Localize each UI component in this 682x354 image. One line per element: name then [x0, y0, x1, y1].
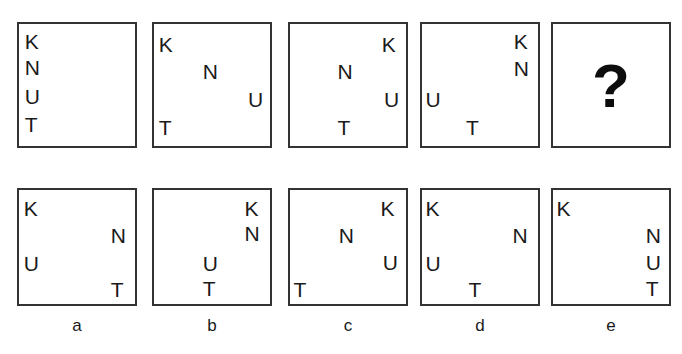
letter-n: N [338, 61, 353, 82]
option-b-cell[interactable]: KNUT [152, 188, 272, 306]
letter-t: T [203, 278, 216, 299]
letter-n: N [339, 225, 354, 246]
option-a-box[interactable]: KNUT [17, 188, 137, 306]
letter-n: N [514, 58, 529, 79]
stimulus-4-cell: KNUT [420, 22, 540, 148]
option-label-e[interactable]: e [551, 316, 671, 336]
letter-k: K [24, 198, 38, 219]
letter-t: T [646, 278, 659, 299]
letter-n: N [25, 57, 40, 78]
letter-k: K [244, 198, 258, 219]
letter-u: U [24, 253, 39, 274]
stimulus-2-box: KNUT [152, 22, 272, 148]
letter-n: N [111, 225, 126, 246]
stimulus-row: KNUTKNUTKNUTKNUT? [0, 22, 682, 148]
letter-t: T [468, 279, 481, 300]
letter-u: U [384, 89, 399, 110]
stimulus-5-unknown-cell: ? [551, 22, 671, 148]
letter-k: K [382, 34, 396, 55]
letter-t: T [25, 114, 38, 135]
question-mark: ? [553, 24, 669, 146]
option-b-box[interactable]: KNUT [152, 188, 272, 306]
letter-t: T [159, 117, 172, 138]
option-e-box[interactable]: KNUT [551, 188, 671, 306]
puzzle-figure: KNUTKNUTKNUTKNUT? KNUTKNUTKNUTKNUTKNUT a… [0, 0, 682, 354]
stimulus-1-cell: KNUT [17, 22, 137, 148]
letter-k: K [425, 198, 439, 219]
letter-u: U [646, 252, 661, 273]
letter-t: T [293, 279, 306, 300]
option-a-cell[interactable]: KNUT [17, 188, 137, 306]
letter-n: N [512, 225, 527, 246]
option-d-cell[interactable]: KNUT [420, 188, 540, 306]
letter-n: N [203, 61, 218, 82]
letter-k: K [556, 198, 570, 219]
letter-t: T [338, 117, 351, 138]
option-label-b[interactable]: b [152, 316, 272, 336]
letter-u: U [25, 86, 40, 107]
option-label-c[interactable]: c [288, 316, 408, 336]
letter-t: T [466, 117, 479, 138]
stimulus-3-cell: KNUT [288, 22, 408, 148]
letter-k: K [25, 31, 39, 52]
stimulus-4-box: KNUT [420, 22, 540, 148]
letter-k: K [159, 34, 173, 55]
letter-u: U [425, 89, 440, 110]
letter-u: U [203, 253, 218, 274]
letter-u: U [248, 89, 263, 110]
letter-n: N [646, 225, 661, 246]
letter-u: U [383, 252, 398, 273]
stimulus-2-cell: KNUT [152, 22, 272, 148]
answer-row: KNUTKNUTKNUTKNUTKNUT [0, 188, 682, 306]
stimulus-1-box: KNUT [17, 22, 137, 148]
stimulus-3-box: KNUT [288, 22, 408, 148]
letter-k: K [380, 198, 394, 219]
option-e-cell[interactable]: KNUT [551, 188, 671, 306]
stimulus-5-unknown-box: ? [551, 22, 671, 148]
letter-t: T [111, 279, 124, 300]
letter-n: N [244, 223, 259, 244]
letter-k: K [514, 31, 528, 52]
option-label-d[interactable]: d [420, 316, 540, 336]
option-c-cell[interactable]: KNUT [288, 188, 408, 306]
option-c-box[interactable]: KNUT [288, 188, 408, 306]
option-d-box[interactable]: KNUT [420, 188, 540, 306]
letter-u: U [425, 253, 440, 274]
option-label-a[interactable]: a [17, 316, 137, 336]
